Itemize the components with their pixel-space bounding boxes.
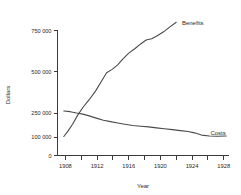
x-tick-label: 1924 (186, 163, 200, 169)
series-lines (64, 22, 226, 136)
series-line-benefits (64, 22, 176, 136)
series-labels: BenefitsCosts (182, 20, 226, 136)
x-tick-label: 1912 (91, 163, 104, 169)
series-line-costs (64, 111, 226, 136)
y-tick-label: 750 000 (31, 28, 51, 34)
y-tick-label: 500 000 (31, 69, 51, 75)
y-tick-label: 250 000 (31, 110, 51, 116)
x-tick-label: 1916 (122, 163, 135, 169)
y-tick-label: 0 (48, 153, 51, 159)
line-chart: 0100 000250 000500 000750 000 1908191219… (0, 0, 241, 195)
x-tick-label: 1928 (217, 163, 230, 169)
y-axis: 0100 000250 000500 000750 000 (31, 28, 57, 159)
series-label-costs: Costs (210, 130, 225, 136)
x-tick-label: 1920 (154, 163, 167, 169)
chart-canvas: 0100 000250 000500 000750 000 1908191219… (0, 0, 241, 195)
x-tick-label: 1908 (59, 163, 72, 169)
x-axis: 190819121916192019241928 (58, 156, 231, 170)
series-label-benefits: Benefits (182, 20, 204, 26)
y-axis-title: Dollars (5, 86, 11, 105)
y-tick-label: 100 000 (31, 134, 51, 140)
x-axis-title: Year (137, 183, 149, 189)
